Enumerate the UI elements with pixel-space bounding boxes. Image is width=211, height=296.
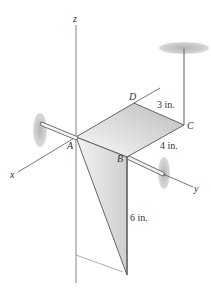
point-d-label: D: [128, 91, 137, 102]
rigid-body-diagram: z x y A B C D 3 in. 4 in. 6 in.: [0, 0, 211, 296]
point-a-label: A: [66, 140, 74, 151]
dimension-b-down: 6 in.: [130, 212, 148, 223]
point-c-label: C: [187, 120, 194, 131]
diagram-canvas: z x y A B C D 3 in. 4 in. 6 in.: [0, 0, 211, 296]
z-axis-label: z: [72, 13, 77, 24]
point-b-label: B: [117, 153, 123, 164]
y-axis-label: y: [193, 183, 199, 194]
projection-line: [76, 255, 123, 272]
dimension-dc: 3 in.: [157, 99, 175, 110]
bearing-a-icon: [33, 113, 47, 147]
x-axis-label: x: [9, 169, 15, 180]
dimension-cb: 4 in.: [160, 140, 178, 151]
shaft-b-highlight: [129, 158, 163, 174]
shaft-a-highlight: [42, 124, 76, 138]
